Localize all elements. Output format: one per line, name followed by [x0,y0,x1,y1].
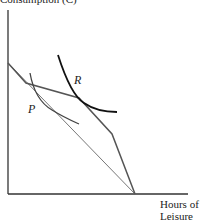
indifference-curve-P [30,73,79,124]
curve-label-R: R [74,74,81,86]
indifference-curve-R [58,55,117,112]
x-axis-label-line1: Hours of [160,198,199,210]
x-axis-label-line2: Leisure [160,210,193,222]
curve-label-P: P [28,103,35,115]
